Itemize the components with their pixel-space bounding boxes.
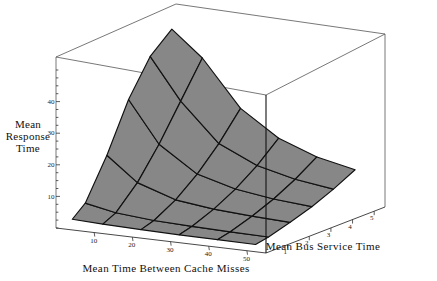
z-tick-40-label: 40	[48, 98, 56, 106]
x-tick-40-label: 40	[205, 250, 213, 258]
x-axis-title: Mean Time Between Cache Misses	[82, 262, 249, 274]
z-axis-title-line-2: Response	[2, 130, 54, 142]
z-axis-title-line-3: Time	[2, 142, 54, 154]
y-tick-4-label: 4	[348, 223, 352, 231]
y-axis-title: Mean Bus Service Time	[266, 240, 380, 252]
z-tick-10-label: 10	[48, 193, 56, 201]
x-tick-20-label: 20	[128, 241, 136, 249]
x-tick-30-label: 30	[167, 246, 175, 254]
y-tick-5-label: 5	[370, 214, 374, 222]
response-time-surface	[72, 29, 355, 244]
plot-canvas: 10203040 1020304050 12345 Mean Time Betw…	[0, 0, 437, 281]
z-axis-title: Mean Response Time	[2, 118, 54, 154]
surface-plot-figure: 10203040 1020304050 12345 Mean Time Betw…	[0, 0, 437, 281]
z-axis-title-line-1: Mean	[2, 118, 54, 130]
z-tick-20-label: 20	[48, 161, 56, 169]
y-tick-3-label: 3	[327, 231, 331, 239]
x-tick-10-label: 10	[90, 237, 98, 245]
